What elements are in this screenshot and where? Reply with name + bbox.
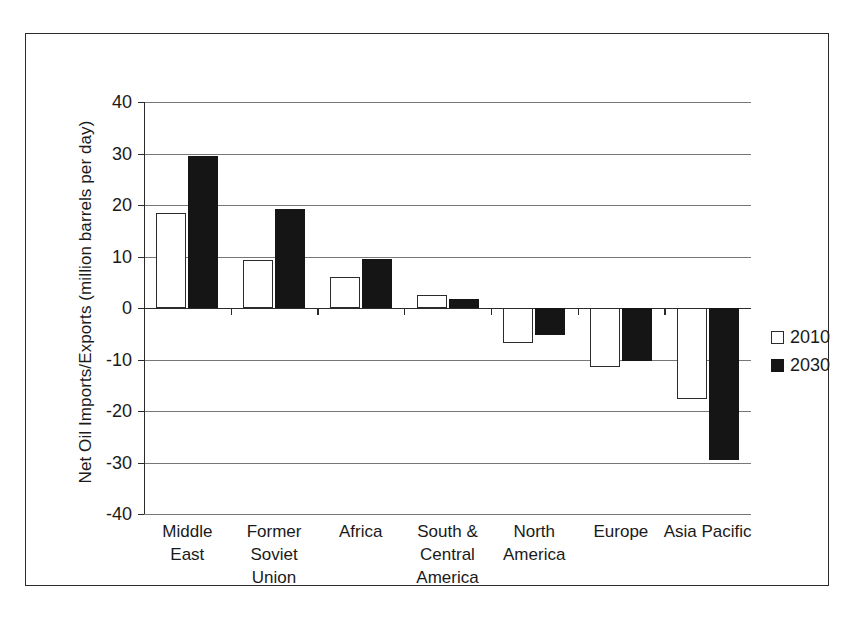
y-tick-mark xyxy=(138,514,144,515)
bar-2030-middle-east xyxy=(188,156,218,308)
x-axis-zero-line xyxy=(144,308,751,309)
gridline xyxy=(144,257,751,258)
y-tick-label: 0 xyxy=(122,298,132,319)
x-category-label-line: America xyxy=(396,566,499,589)
gridline xyxy=(144,514,751,515)
legend-swatch-white-square xyxy=(771,331,784,344)
y-axis-title: Net Oil Imports/Exports (million barrels… xyxy=(76,92,96,512)
gridline xyxy=(144,360,751,361)
x-category-label-line: Union xyxy=(223,566,326,589)
bar-2010-former-soviet-union xyxy=(243,260,273,308)
y-tick-label: -30 xyxy=(106,452,132,473)
bar-2030-south-central-america xyxy=(449,299,479,308)
x-tick-mark xyxy=(231,308,232,315)
bar-2010-europe xyxy=(590,308,620,367)
figure-bar-chart: Net Oil Imports/Exports (million barrels… xyxy=(0,0,856,617)
x-tick-mark xyxy=(317,308,318,315)
y-tick-label: 30 xyxy=(112,143,132,164)
x-tick-mark xyxy=(404,308,405,315)
x-tick-mark xyxy=(664,308,665,315)
gridline xyxy=(144,411,751,412)
x-category-label-line: Asia Pacific xyxy=(656,520,759,543)
y-tick-label: 40 xyxy=(112,92,132,113)
legend-item-2010[interactable]: 2010 xyxy=(771,323,856,351)
y-tick-label: -20 xyxy=(106,401,132,422)
x-tick-mark xyxy=(491,308,492,315)
y-tick-label: -40 xyxy=(106,504,132,525)
bar-2010-africa xyxy=(330,277,360,308)
gridline xyxy=(144,154,751,155)
bar-2010-asia-pacific xyxy=(677,308,707,399)
bar-2030-europe xyxy=(622,308,652,361)
legend-label: 2030 xyxy=(790,355,830,376)
gridline xyxy=(144,463,751,464)
bar-2030-asia-pacific xyxy=(709,308,739,460)
bar-2030-north-america xyxy=(535,308,565,335)
bar-2030-africa xyxy=(362,259,392,308)
x-category-label-line: Soviet xyxy=(223,543,326,566)
y-tick-label: -10 xyxy=(106,349,132,370)
x-category-label-line: America xyxy=(483,543,586,566)
chart-outer-frame: Net Oil Imports/Exports (million barrels… xyxy=(25,33,829,586)
gridline xyxy=(144,205,751,206)
bar-2030-former-soviet-union xyxy=(275,209,305,308)
legend-label: 2010 xyxy=(790,327,830,348)
bar-2010-middle-east xyxy=(156,213,186,308)
y-tick-label: 10 xyxy=(112,246,132,267)
legend-swatch-black-square xyxy=(771,359,784,372)
legend-item-2030[interactable]: 2030 xyxy=(771,351,856,379)
x-category-label: Asia Pacific xyxy=(656,520,759,543)
bar-2010-south-central-america xyxy=(417,295,447,308)
plot-area: 403020100-10-20-30-40 MiddleEastFormerSo… xyxy=(144,102,751,514)
y-tick-label: 20 xyxy=(112,195,132,216)
bar-2010-north-america xyxy=(503,308,533,343)
gridline xyxy=(144,102,751,103)
x-tick-mark xyxy=(578,308,579,315)
chart-legend: 20102030 xyxy=(771,323,856,379)
